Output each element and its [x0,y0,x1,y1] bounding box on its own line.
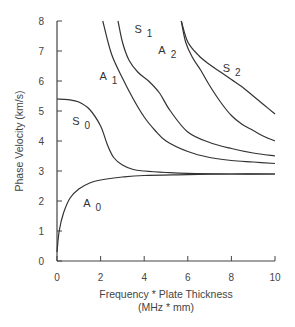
curve-s0 [57,99,275,174]
label-s1: S1 [134,23,152,39]
x-axis-title: Frequency * Plate Thickness [99,288,232,300]
y-tick-label: 6 [38,76,44,87]
y-tick-label: 8 [38,16,44,27]
curve-a2 [181,21,275,141]
curve-s1 [118,21,275,156]
label-a0: A0 [83,197,101,213]
y-axis-title: Phase Velocity (km/s) [13,91,25,192]
x-tick-label: 8 [229,272,235,283]
x-tick-label: 2 [98,272,104,283]
x-tick-label: 0 [54,272,60,283]
x-axis-units: (MHz * mm) [138,301,194,313]
label-a1: A1 [100,70,118,86]
label-a2: A2 [158,44,176,60]
dispersion-curves [57,21,275,252]
dispersion-chart: 0123456780246810 A0S0A1S1A2S2 Phase Velo… [0,0,295,327]
curve-labels: A0S0A1S1A2S2 [72,23,241,213]
y-tick-label: 4 [38,136,44,147]
curve-a0 [57,174,275,252]
y-tick-label: 1 [38,226,44,237]
y-tick-label: 3 [38,166,44,177]
label-s0: S0 [72,115,90,131]
x-tick-label: 4 [141,272,147,283]
y-tick-label: 0 [38,256,44,267]
y-tick-label: 7 [38,46,44,57]
y-tick-label: 5 [38,106,44,117]
x-tick-label: 10 [269,272,281,283]
x-tick-label: 6 [185,272,191,283]
y-tick-label: 2 [38,196,44,207]
